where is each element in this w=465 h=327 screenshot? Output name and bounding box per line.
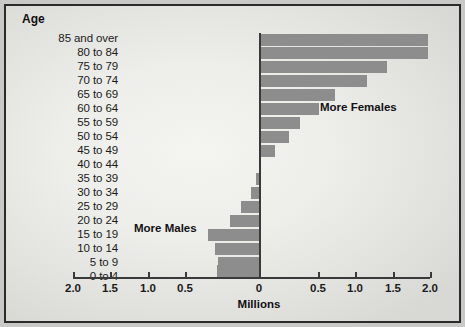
bar-80-to-84 — [260, 47, 428, 59]
age-label: 50 to 54 — [77, 130, 118, 142]
bar-20-to-24 — [230, 215, 260, 227]
x-tick-label: 0 — [256, 282, 262, 294]
age-label: 0 to 4 — [90, 270, 118, 282]
age-label: 65 to 69 — [77, 88, 118, 100]
age-label: 25 to 29 — [77, 200, 118, 212]
x-tick-label: 0.5 — [177, 282, 193, 294]
age-label: 80 to 84 — [77, 46, 118, 58]
age-label: 30 to 34 — [77, 186, 118, 198]
annotation-more-males: More Males — [134, 222, 197, 234]
bar-55-to-59 — [260, 117, 300, 129]
x-tick-mark — [110, 272, 112, 278]
bar-75-to-79 — [260, 61, 387, 73]
bar-0-to-4 — [217, 265, 260, 277]
age-label: 60 to 64 — [77, 102, 118, 114]
age-label: 85 and over — [58, 32, 118, 44]
x-tick-mark — [318, 272, 320, 278]
age-label: 35 to 39 — [77, 172, 118, 184]
age-axis-title: Age — [22, 12, 45, 26]
bar-45-to-49 — [260, 145, 275, 157]
bar-60-to-64 — [260, 103, 319, 115]
age-label: 75 to 79 — [77, 60, 118, 72]
x-tick-label: 0.5 — [310, 282, 326, 294]
x-tick-mark — [430, 272, 432, 278]
x-axis-title: Millions — [238, 298, 281, 310]
x-tick-mark — [185, 272, 187, 278]
bar-65-to-69 — [260, 89, 335, 101]
bar-85-and-over — [260, 34, 428, 46]
age-label: 5 to 9 — [90, 256, 118, 268]
annotation-more-females: More Females — [320, 101, 397, 113]
bar-50-to-54 — [260, 131, 289, 143]
x-tick-mark — [148, 272, 150, 278]
x-axis-line — [73, 277, 430, 279]
bar-25-to-29 — [241, 201, 260, 213]
x-tick-mark — [259, 272, 261, 278]
x-tick-label: 2.0 — [65, 282, 81, 294]
age-label: 15 to 19 — [77, 228, 118, 240]
x-tick-mark — [393, 272, 395, 278]
plot-area: Age 85 and over 80 to 84 75 to 79 70 to … — [0, 0, 465, 327]
x-tick-label: 1.5 — [102, 282, 118, 294]
age-label: 45 to 49 — [77, 144, 118, 156]
x-tick-label: 1.0 — [140, 282, 156, 294]
age-label: 10 to 14 — [77, 242, 118, 254]
zero-axis-line — [259, 33, 261, 278]
age-label: 20 to 24 — [77, 214, 118, 226]
age-label: 70 to 74 — [77, 74, 118, 86]
bar-70-to-74 — [260, 75, 367, 87]
bar-15-to-19 — [208, 229, 260, 241]
age-label: 55 to 59 — [77, 116, 118, 128]
population-pyramid-figure: Age 85 and over 80 to 84 75 to 79 70 to … — [0, 0, 465, 327]
bar-10-to-14 — [215, 243, 260, 255]
x-tick-label: 1.5 — [385, 282, 401, 294]
x-tick-label: 2.0 — [422, 282, 438, 294]
x-tick-mark — [355, 272, 357, 278]
age-label: 40 to 44 — [77, 158, 118, 170]
x-tick-label: 1.0 — [347, 282, 363, 294]
x-tick-mark — [73, 272, 75, 278]
